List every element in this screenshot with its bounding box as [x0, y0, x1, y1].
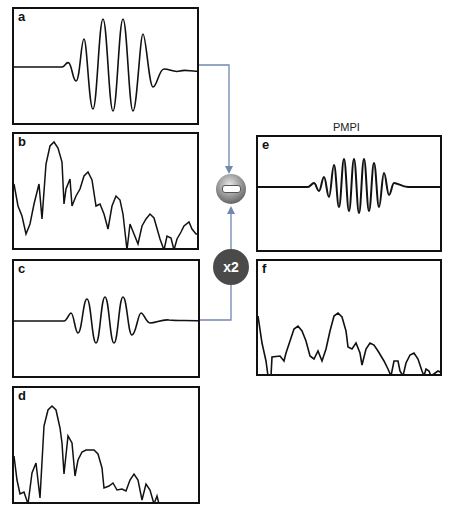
minus-icon [222, 185, 241, 193]
spectrum-d [14, 388, 200, 504]
panel-c: c [12, 259, 200, 378]
panel-b: b [12, 132, 199, 250]
waveform-c [14, 261, 200, 378]
panel-f: f [256, 259, 442, 376]
panel-a: a [12, 7, 199, 125]
panel-e: e [256, 135, 442, 252]
waveform-e [258, 137, 442, 252]
waveform-a [14, 9, 199, 125]
panel-d: d [12, 386, 200, 504]
spectrum-b [14, 134, 199, 250]
panel-e-title: PMPI [333, 121, 360, 133]
multiply-operator: x2 [213, 249, 249, 285]
subtract-operator [216, 174, 246, 204]
multiply-label: x2 [223, 259, 239, 275]
spectrum-f [258, 261, 442, 376]
